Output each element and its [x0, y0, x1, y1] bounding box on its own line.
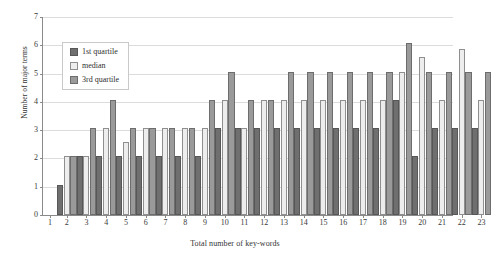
bar: [254, 128, 260, 215]
x-axis-tick-label: 12: [260, 219, 268, 227]
y-axis-tick-mark: [40, 215, 43, 216]
bar: [175, 156, 181, 215]
y-axis-tick-label: 7: [34, 13, 38, 21]
x-axis-tick-label: 11: [241, 219, 249, 227]
x-axis-tick-label: 21: [438, 219, 446, 227]
bar: [156, 156, 162, 215]
legend-swatch: [70, 48, 78, 56]
bar-group: 10: [215, 17, 235, 215]
bar-group: 21: [432, 17, 452, 215]
x-axis-title: Total number of key-words: [0, 239, 470, 248]
bar: [353, 128, 359, 215]
x-axis-tick-label: 16: [339, 219, 347, 227]
bar-group: 8: [175, 17, 195, 215]
legend-item: median: [70, 62, 119, 70]
bar: [432, 128, 438, 215]
bar-group: 20: [412, 17, 432, 215]
bar: [241, 128, 247, 215]
x-axis-tick-label: 6: [144, 219, 148, 227]
y-axis-tick-label: 3: [34, 126, 38, 134]
x-axis-tick-label: 3: [84, 219, 88, 227]
bar-group: 13: [274, 17, 294, 215]
y-axis-title: Number of major terms: [20, 13, 29, 153]
bar: [116, 156, 122, 215]
bar: [136, 156, 142, 215]
x-axis-tick-label: 13: [280, 219, 288, 227]
bar: [340, 100, 346, 215]
bar: [215, 128, 221, 215]
bar: [83, 156, 89, 215]
bar: [143, 128, 149, 215]
y-axis-tick-label: 6: [34, 41, 38, 49]
x-axis-tick-label: 18: [379, 219, 387, 227]
bar-group: 11: [235, 17, 255, 215]
x-axis-tick-label: 14: [300, 219, 308, 227]
bar: [294, 128, 300, 215]
bar: [96, 156, 102, 215]
y-axis-tick-label: 1: [34, 183, 38, 191]
x-axis-tick-label: 4: [104, 219, 108, 227]
legend-label: 3rd quartile: [82, 76, 119, 84]
bar: [222, 100, 228, 215]
x-axis-tick-label: 20: [418, 219, 426, 227]
bar: [393, 100, 399, 215]
x-axis-tick-label: 7: [163, 219, 167, 227]
bar: [57, 185, 63, 215]
bar: [261, 100, 267, 215]
legend-label: 1st quartile: [82, 48, 118, 56]
bar-group: 19: [393, 17, 413, 215]
bar: [314, 128, 320, 215]
bar: [373, 128, 379, 215]
bar: [380, 100, 386, 215]
x-axis-tick-label: 15: [319, 219, 327, 227]
x-axis-tick-label: 17: [359, 219, 367, 227]
bar: [182, 128, 188, 215]
x-axis-tick-label: 10: [221, 219, 229, 227]
bar: [202, 128, 208, 215]
x-axis-tick-label: 19: [398, 219, 406, 227]
bar-group: 12: [254, 17, 274, 215]
chart-legend: 1st quartilemedian3rd quartile: [62, 42, 129, 90]
legend-swatch: [70, 62, 78, 70]
bar-group: 9: [195, 17, 215, 215]
bar-group: 7: [156, 17, 176, 215]
x-axis-tick-label: 9: [203, 219, 207, 227]
bar: [301, 100, 307, 215]
bar: [281, 100, 287, 215]
bar: [162, 128, 168, 215]
bar-group: 15: [314, 17, 334, 215]
bar: [399, 72, 405, 215]
x-axis-tick-label: 2: [65, 219, 69, 227]
x-axis-tick-label: 23: [477, 219, 485, 227]
y-axis-tick-label: 0: [34, 211, 38, 219]
bar-group: 14: [294, 17, 314, 215]
bar-group: 18: [373, 17, 393, 215]
x-axis-tick-label: 8: [183, 219, 187, 227]
y-axis-tick-label: 2: [34, 154, 38, 162]
bar: [478, 100, 484, 215]
bar: [103, 128, 109, 215]
legend-item: 3rd quartile: [70, 76, 119, 84]
bar-group: 17: [353, 17, 373, 215]
x-axis-tick-label: 5: [124, 219, 128, 227]
bar: [274, 128, 280, 215]
x-axis-tick-label: 1: [48, 219, 52, 227]
x-axis-tick-label: 22: [458, 219, 466, 227]
bar: [77, 156, 83, 215]
legend-swatch: [70, 76, 78, 84]
bar: [459, 49, 465, 215]
bar: [123, 142, 129, 215]
bar: [320, 100, 326, 215]
legend-item: 1st quartile: [70, 48, 119, 56]
bar: [485, 72, 491, 215]
bar: [195, 156, 201, 215]
bar-group: 23: [472, 17, 491, 215]
bar: [419, 57, 425, 215]
bar-group: 1: [43, 17, 57, 215]
bar: [452, 128, 458, 215]
bar-group: 16: [333, 17, 353, 215]
bar: [360, 100, 366, 215]
y-axis-tick-label: 5: [34, 70, 38, 78]
y-axis-tick-label: 4: [34, 98, 38, 106]
